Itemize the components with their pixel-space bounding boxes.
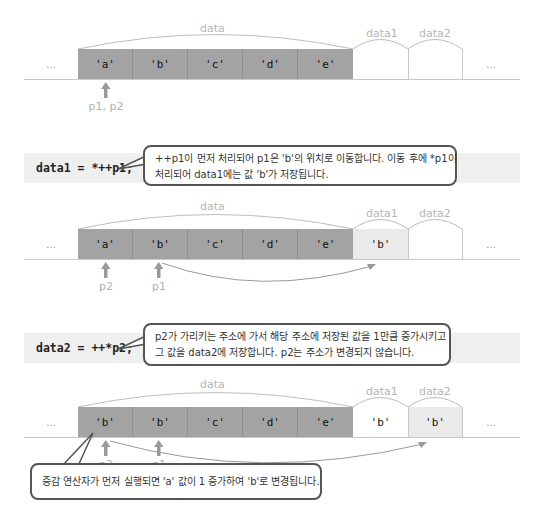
cell-data-2: 'c'	[188, 229, 243, 259]
label-data: data	[200, 200, 225, 213]
pointer-label-p1-p2: p1, p2	[89, 100, 124, 113]
label-data2: data2	[419, 385, 451, 398]
cell-data-0: 'a'	[78, 49, 133, 79]
cell-data-3: 'd'	[243, 229, 298, 259]
row-bottom-line	[24, 259, 520, 260]
divider	[462, 229, 463, 259]
cell-data-1: 'b'	[133, 49, 188, 79]
cell-data-3: 'd'	[243, 49, 298, 79]
label-data: data	[200, 22, 225, 35]
memory-diagram-initial: data data1 data2 … 'a' 'b' 'c' 'd' 'e' ……	[0, 0, 540, 110]
label-data1: data1	[366, 27, 398, 40]
cell-ellipsis-right: …	[462, 49, 520, 79]
pointer-label-p2: p2	[99, 280, 113, 293]
callout-line: p2가 가리키는 주소에 가서 해당 주소에 저장된 값을 1만큼 증가시키고	[155, 329, 439, 345]
cell-data-2: 'c'	[188, 49, 243, 79]
row-bottom-line	[24, 79, 520, 80]
divider	[408, 49, 409, 79]
label-data1: data1	[366, 385, 398, 398]
cell-data1	[353, 49, 408, 79]
arrow-up-icon	[101, 82, 111, 98]
memory-diagram-after-step1: data data1 data2 … 'a' 'b' 'c' 'd' 'e' '…	[0, 180, 540, 290]
curved-arrow-icon	[162, 263, 376, 281]
pointer-label-p1: p1	[152, 280, 166, 293]
cell-data-4: 'e'	[298, 49, 353, 79]
label-data: data	[200, 378, 225, 391]
cell-data-0: 'a'	[78, 229, 133, 259]
cell-ellipsis-left: …	[24, 49, 78, 79]
label-data2: data2	[419, 207, 451, 220]
cell-data1: 'b'	[353, 229, 408, 259]
callout-line: ++p1이 먼저 처리되어 p1은 'b'의 위치로 이동합니다. 이동 후에 …	[155, 151, 445, 167]
label-data1: data1	[366, 207, 398, 220]
arrow-up-icon	[101, 262, 111, 278]
label-data2: data2	[419, 27, 451, 40]
cell-ellipsis-left: …	[24, 229, 78, 259]
callout-line: 증감 연산자가 먼저 실행되면 'a' 값이 1 증가하여 'b'로 변경됩니다…	[42, 474, 310, 490]
divider	[408, 229, 409, 259]
arrow-up-icon	[154, 262, 164, 278]
cell-data-4: 'e'	[298, 229, 353, 259]
cell-ellipsis-right: …	[462, 229, 520, 259]
divider	[462, 49, 463, 79]
cell-data-1: 'b'	[133, 229, 188, 259]
cell-data2	[408, 229, 462, 259]
cell-data2	[408, 49, 462, 79]
callout-stage3: 증감 연산자가 먼저 실행되면 'a' 값이 1 증가하여 'b'로 변경됩니다…	[30, 463, 322, 500]
